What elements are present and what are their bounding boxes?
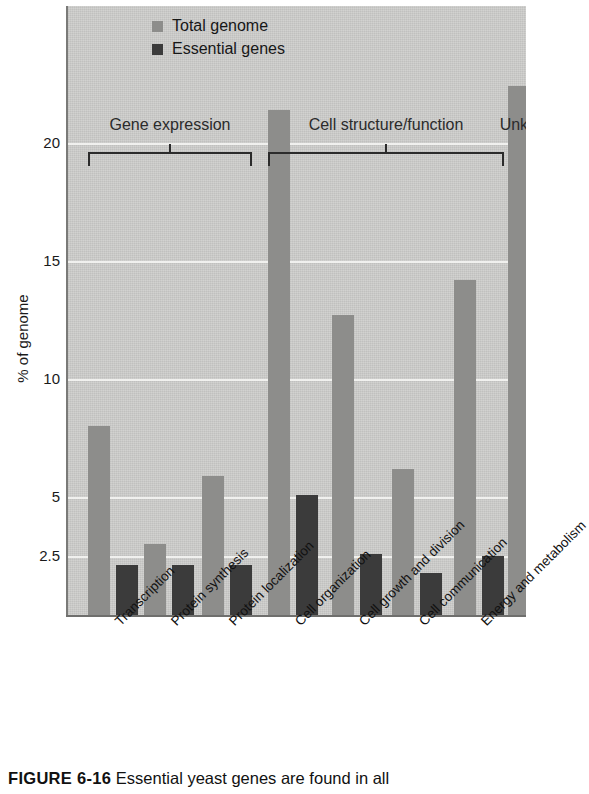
gridline-20 (68, 143, 526, 145)
bracket-cap-right (502, 154, 504, 166)
bracket-cap-right (250, 154, 252, 166)
group-title-cell-structure-function: Cell structure/function (309, 116, 464, 134)
gridline-15 (68, 261, 526, 263)
legend-swatch-icon-total (152, 21, 163, 32)
figure-caption: FIGURE 6-16 Essential yeast genes are fo… (8, 768, 534, 789)
chart-legend: Total genome Essential genes (152, 18, 285, 64)
figure-caption-label: FIGURE 6-16 (8, 769, 111, 787)
group-title-unknown: Unknown (500, 116, 526, 134)
figure-caption-text: Essential yeast genes are found in all (116, 769, 389, 787)
y-tick-label-2.5: 2.5 (0, 548, 60, 563)
bracket-cap-left (268, 154, 270, 166)
group-title-gene-expression: Gene expression (110, 116, 231, 134)
bracket-cap-left (88, 154, 90, 166)
bar-transcription-total-genome (88, 426, 110, 615)
legend-label-total: Total genome (172, 18, 268, 34)
y-axis-line (66, 6, 68, 617)
bracket-center-tick (169, 144, 171, 154)
y-tick-label-20: 20 (0, 135, 60, 150)
y-tick-label-5: 5 (0, 489, 60, 504)
y-tick-label-15: 15 (0, 253, 60, 268)
bracket-gene-expression (88, 152, 252, 166)
bracket-center-tick (385, 144, 387, 154)
legend-label-essential: Essential genes (172, 41, 285, 57)
legend-item-essential-genes: Essential genes (152, 41, 285, 57)
bracket-cell-structure-function (268, 152, 504, 166)
y-axis-title: % of genome (14, 269, 31, 409)
legend-item-total-genome: Total genome (152, 18, 285, 34)
legend-swatch-icon-essential (152, 44, 163, 55)
bar-cell-organization-total-genome (268, 110, 290, 615)
bar-unknown-total-genome (508, 86, 526, 615)
